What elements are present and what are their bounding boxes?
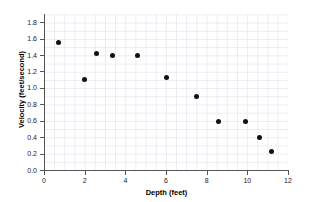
x-tick-label: 10 bbox=[237, 177, 257, 184]
y-tick-label: 1.2 bbox=[27, 68, 37, 75]
data-point bbox=[257, 135, 262, 140]
x-tick-label: 8 bbox=[197, 177, 217, 184]
y-axis-title: Velocity (feet/second) bbox=[17, 25, 26, 155]
data-point bbox=[243, 119, 248, 124]
y-tick-mark bbox=[40, 137, 44, 138]
x-tick-mark bbox=[207, 171, 208, 175]
y-tick-label: 0.6 bbox=[27, 117, 37, 124]
x-tick-mark bbox=[44, 171, 45, 175]
x-tick-mark bbox=[125, 171, 126, 175]
y-tick-label: 0.4 bbox=[27, 134, 37, 141]
x-tick-label: 0 bbox=[34, 177, 54, 184]
scatter-chart: 0.00.20.40.60.81.01.21.41.61.8 024681012… bbox=[0, 0, 318, 202]
y-tick-label: 0.8 bbox=[27, 101, 37, 108]
x-axis-title: Depth (feet) bbox=[44, 188, 289, 197]
y-tick-mark bbox=[40, 154, 44, 155]
x-tick-label: 12 bbox=[278, 177, 298, 184]
plot-area bbox=[44, 14, 288, 170]
x-tick-label: 2 bbox=[75, 177, 95, 184]
y-tick-mark bbox=[40, 104, 44, 105]
y-tick-label: 1.4 bbox=[27, 52, 37, 59]
x-tick-label: 6 bbox=[156, 177, 176, 184]
data-point bbox=[56, 40, 61, 45]
x-tick-mark bbox=[247, 171, 248, 175]
y-tick-mark bbox=[40, 55, 44, 56]
x-tick-mark bbox=[288, 171, 289, 175]
y-axis-line bbox=[44, 14, 45, 171]
data-point bbox=[164, 75, 169, 80]
y-tick-label: 0.0 bbox=[27, 167, 37, 174]
x-tick-label: 4 bbox=[115, 177, 135, 184]
y-tick-mark bbox=[40, 22, 44, 23]
y-tick-mark bbox=[40, 88, 44, 89]
y-tick-label: 1.8 bbox=[27, 19, 37, 26]
x-tick-mark bbox=[166, 171, 167, 175]
y-tick-label: 0.2 bbox=[27, 150, 37, 157]
y-tick-label: 1.6 bbox=[27, 35, 37, 42]
y-tick-mark bbox=[40, 39, 44, 40]
y-tick-mark bbox=[40, 71, 44, 72]
y-tick-mark bbox=[40, 121, 44, 122]
x-tick-mark bbox=[85, 171, 86, 175]
y-tick-label: 1.0 bbox=[27, 84, 37, 91]
